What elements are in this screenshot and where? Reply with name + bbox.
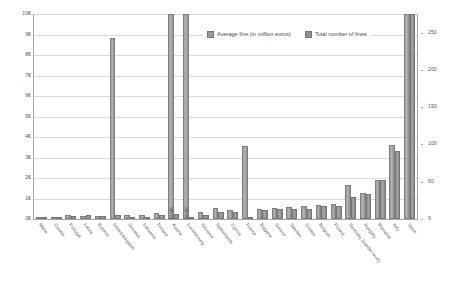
bar-group	[211, 14, 226, 219]
left-axis-tick-mark	[29, 55, 31, 56]
category-label-cell: Cyprus	[226, 221, 241, 281]
left-axis-tick-mark	[29, 76, 31, 77]
bar-group	[284, 14, 299, 219]
bar-group: 22.5M	[167, 14, 182, 219]
right-axis-tick-label: 200	[428, 67, 437, 72]
bar-group	[93, 14, 108, 219]
category-label-cell: France	[240, 221, 255, 281]
category-label-cell: Spain	[402, 221, 417, 281]
category-label-cell: Greece	[270, 221, 285, 281]
legend-swatch-icon	[305, 31, 312, 38]
left-axis-tick-mark	[29, 14, 31, 15]
category-label-cell: Lithuania	[137, 221, 152, 281]
bar-total-fines[interactable]	[262, 210, 268, 219]
category-label-cell: Belgium	[314, 221, 329, 281]
bar-average-fine[interactable]	[242, 146, 248, 219]
bar-group	[196, 14, 211, 219]
category-label-cell: Slovenia	[196, 221, 211, 281]
bar-group	[314, 14, 329, 219]
category-label-cell: Luxembourg	[181, 221, 196, 281]
bar-group: 20.6M	[181, 14, 196, 219]
bar-total-fines[interactable]	[366, 194, 372, 219]
bar-group	[78, 14, 93, 219]
left-value-axis: 0€1€2€3€4€5€6€7€8€9€10€	[0, 0, 31, 281]
legend-item-total-fines: Total number of fines	[305, 31, 367, 38]
bar-total-fines[interactable]	[410, 14, 416, 219]
category-label-cell: Sweden	[284, 221, 299, 281]
bar-total-fines[interactable]	[56, 217, 62, 219]
category-label: Latvia	[82, 223, 93, 235]
bar-group	[137, 14, 152, 219]
bar-total-fines[interactable]	[203, 215, 209, 219]
right-axis-tick-mark	[421, 33, 423, 34]
right-axis-tick-label: 100	[428, 141, 437, 146]
bar-group	[240, 14, 255, 219]
right-axis-tick-mark	[421, 144, 423, 145]
bar-total-fines[interactable]	[307, 209, 313, 219]
right-axis-tick-mark	[421, 219, 423, 220]
category-label-cell: Poland	[329, 221, 344, 281]
bar-total-fines[interactable]	[71, 216, 77, 219]
bar-total-fines[interactable]	[395, 151, 401, 219]
left-axis-tick-mark	[29, 137, 31, 138]
bar-average-fine[interactable]: 22.5M	[168, 14, 174, 219]
category-label: Malta	[38, 223, 49, 235]
right-axis-tick-label: 250	[428, 30, 437, 35]
bar-total-fines[interactable]	[100, 216, 106, 219]
bar-total-fines[interactable]	[248, 217, 254, 219]
bar-group	[122, 14, 137, 219]
gdpr-fines-chart: 0€1€2€3€4€5€6€7€8€9€10€ 050100150200250 …	[0, 0, 454, 281]
bar-total-fines[interactable]	[292, 209, 298, 219]
bar-total-fines[interactable]	[130, 217, 136, 219]
left-axis-tick-mark	[29, 199, 31, 200]
bar-group	[34, 14, 49, 219]
bar-total-fines[interactable]	[351, 197, 357, 219]
category-label-cell: Malta	[34, 221, 49, 281]
bar-total-fines[interactable]	[41, 217, 47, 219]
category-label-cell: Finland	[152, 221, 167, 281]
bar-group	[152, 14, 167, 219]
category-label-cell: Netherlands	[211, 221, 226, 281]
category-axis-labels: MaltaCroatiaPortugalLatviaEstoniaUnited …	[34, 221, 417, 281]
bar-total-fines[interactable]	[336, 206, 342, 219]
bar-total-fines[interactable]	[174, 214, 180, 219]
category-label-cell: Romania	[373, 221, 388, 281]
bar-average-fine[interactable]	[110, 38, 116, 219]
bar-average-fine[interactable]: 20.6M	[183, 14, 189, 219]
bar-total-fines[interactable]	[86, 215, 92, 219]
category-label: Spain	[406, 223, 417, 235]
bar-total-fines[interactable]	[380, 180, 386, 219]
chart-legend: Average fine (in million euros) Total nu…	[203, 29, 371, 40]
left-axis-tick-mark	[29, 117, 31, 118]
bar-group	[108, 14, 123, 219]
bar-value-label: 22.5M	[169, 207, 174, 219]
legend-item-average-fine: Average fine (in million euros)	[207, 31, 291, 38]
bar-group	[402, 14, 417, 219]
right-axis-tick-mark	[421, 182, 423, 183]
bar-total-fines[interactable]	[321, 206, 327, 219]
category-label-cell: Hungary	[358, 221, 373, 281]
bar-total-fines[interactable]	[233, 212, 239, 219]
bar-group	[270, 14, 285, 219]
bar-total-fines[interactable]	[218, 212, 224, 219]
bar-series-container: 22.5M20.6M	[34, 14, 417, 219]
bar-group	[358, 14, 373, 219]
category-label-cell: Latvia	[78, 221, 93, 281]
left-axis-tick-mark	[29, 96, 31, 97]
category-label-cell: United Kingdom	[108, 221, 123, 281]
bar-group	[343, 14, 358, 219]
bar-total-fines[interactable]	[159, 215, 165, 219]
category-label: Italy	[391, 223, 400, 232]
bar-total-fines[interactable]	[115, 215, 121, 219]
right-axis-tick-mark	[421, 107, 423, 108]
category-label-cell: Estonia	[93, 221, 108, 281]
bar-total-fines[interactable]	[189, 217, 195, 219]
left-axis-tick-mark	[29, 178, 31, 179]
bar-total-fines[interactable]	[145, 217, 151, 219]
right-value-axis: 050100150200250	[421, 0, 451, 281]
legend-label-average-fine: Average fine (in million euros)	[217, 32, 291, 38]
category-label-cell: Croatia	[49, 221, 64, 281]
bar-group	[373, 14, 388, 219]
category-label-cell: Slovakia	[122, 221, 137, 281]
bar-total-fines[interactable]	[277, 209, 283, 219]
